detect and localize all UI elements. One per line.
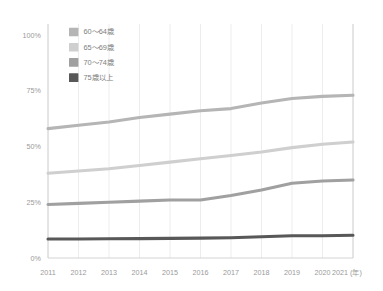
x-axis-tick-label: 2011 [40,268,55,277]
legend-label-2: 65〜69歳 [84,43,115,52]
y-axis-tick-label: 25% [27,198,42,207]
chart-canvas: 0%25%50%75%100% 201120122013201420152016… [0,0,383,291]
chart-legend: 60〜64歳65〜69歳70〜74歳75歳以上 [69,27,115,82]
y-axis-labels: 0%25%50%75%100% [23,31,42,263]
x-axis-tick-label: 2012 [71,268,87,277]
y-axis-tick-label: 100% [23,31,42,40]
x-axis-tick-label: 2016 [193,268,209,277]
y-axis-tick-label: 0% [31,254,42,263]
y-axis-tick-label: 50% [27,142,42,151]
x-axis-tick-label: 2014 [132,268,148,277]
x-axis-tick-label: 2019 [284,268,300,277]
x-axis-tick-label: 2013 [101,268,117,277]
legend-swatch-1 [69,28,78,37]
x-axis-tick-label: 2017 [223,268,239,277]
legend-swatch-2 [69,43,78,52]
legend-swatch-4 [69,73,78,82]
line-chart: 0%25%50%75%100% 201120122013201420152016… [0,0,383,291]
x-axis-tick-label: 2018 [254,268,270,277]
y-axis-tick-label: 75% [27,86,42,95]
x-axis-tick-label: 2015 [162,268,178,277]
legend-swatch-3 [69,58,78,67]
legend-label-4: 75歳以上 [84,73,114,82]
x-axis-tick-label: 2021 (年) [332,268,362,277]
legend-label-1: 60〜64歳 [84,27,115,36]
x-axis-tick-label: 2020 [315,268,331,277]
x-axis-labels: 2011201220132014201520162017201820192020… [40,268,362,277]
legend-label-3: 70〜74歳 [84,58,115,67]
